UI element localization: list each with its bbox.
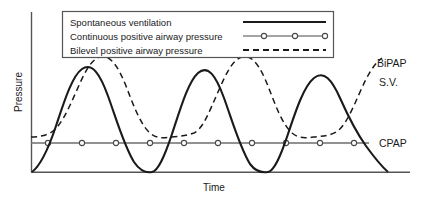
y-axis-label: Pressure — [13, 72, 24, 112]
curve-label-sv: S.V. — [379, 76, 398, 88]
legend-label-spontaneous-ventilation: Spontaneous ventilation — [70, 17, 171, 28]
ventilation-pressure-chart: Pressure Time BiPAP S.V. CPAP — [0, 0, 421, 198]
curve-label-cpap: CPAP — [379, 137, 407, 149]
curve-label-bipap: BiPAP — [377, 57, 407, 69]
legend-label-cpap: Continuous positive airway pressure — [70, 31, 223, 42]
x-axis-label: Time — [203, 182, 225, 193]
legend: Spontaneous ventilation Continuous posit… — [63, 12, 334, 58]
legend-label-bipap: Bilevel positive airway pressure — [70, 45, 203, 56]
